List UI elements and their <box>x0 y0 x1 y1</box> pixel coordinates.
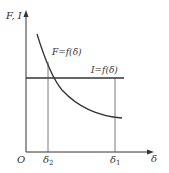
i-line-label: I=f(δ) <box>91 66 118 75</box>
delta2-tick-label: δ2 <box>43 155 54 167</box>
delta1-tick-label: δ1 <box>110 155 121 167</box>
f-curve-label: F=f(δ) <box>52 48 82 57</box>
x-axis-label: δ <box>151 154 157 164</box>
y-axis-label: F, I <box>6 11 22 21</box>
diagram-canvas <box>0 0 169 173</box>
y-axis-arrow-icon <box>24 10 29 17</box>
origin-label: O <box>17 155 25 165</box>
